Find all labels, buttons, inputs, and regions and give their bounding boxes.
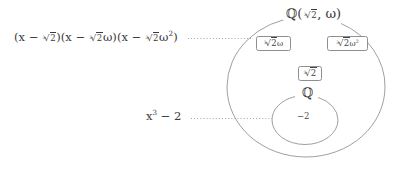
splitting-polynomial-label: (x − 3√2)(x − 3√2ω)(x − 3√2ω2)	[14, 32, 178, 44]
boxed-root-times-omega: 3√2ω	[256, 36, 291, 51]
boxed-root-times-omega-squared: 3√2ω2	[327, 36, 368, 51]
outer-field-label: ℚ( 3√2, ω)	[283, 7, 344, 20]
boxed-real-cube-root-label: 3√2	[303, 69, 316, 78]
boxed-root-times-omega-squared-label: 3√2ω2	[336, 39, 358, 48]
inner-field-element-label: −2	[297, 112, 310, 121]
boxed-real-cube-root: 3√2	[298, 66, 322, 81]
inner-field-label: ℚ	[298, 86, 317, 99]
boxed-root-times-omega-label: 3√2ω	[264, 39, 283, 48]
field-extension-diagram	[0, 0, 409, 172]
base-polynomial-label: x3 − 2	[146, 111, 181, 123]
